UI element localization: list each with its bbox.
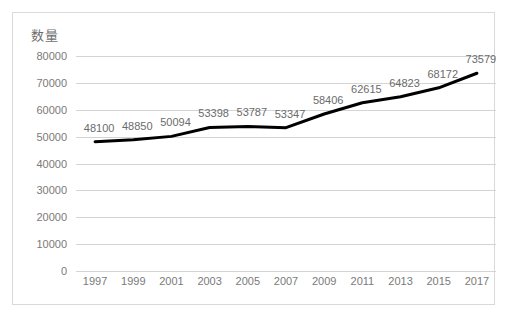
x-tick-label: 2013 xyxy=(388,275,412,287)
y-tick-label: 50000 xyxy=(21,131,67,143)
data-label: 53787 xyxy=(237,106,268,118)
data-label: 68172 xyxy=(427,68,458,80)
data-label: 48850 xyxy=(122,120,153,132)
x-tick-label: 1997 xyxy=(83,275,107,287)
y-tick-label: 60000 xyxy=(21,104,67,116)
x-tick-label: 2001 xyxy=(159,275,183,287)
data-label: 64823 xyxy=(389,77,420,89)
y-tick-label: 30000 xyxy=(21,184,67,196)
data-label: 50094 xyxy=(160,116,191,128)
data-label: 48100 xyxy=(84,122,115,134)
x-tick-label: 2005 xyxy=(236,275,260,287)
y-tick-label: 10000 xyxy=(21,238,67,250)
x-tick-label: 2015 xyxy=(426,275,450,287)
data-label: 58406 xyxy=(313,94,344,106)
y-tick-label: 0 xyxy=(21,265,67,277)
y-tick-label: 80000 xyxy=(21,50,67,62)
data-label: 53398 xyxy=(198,107,229,119)
x-tick-label: 1999 xyxy=(121,275,145,287)
chart-container: 数量 0100002000030000400005000060000700008… xyxy=(12,12,495,305)
data-point-labels: 4810048850500945339853787533475840662615… xyxy=(76,56,496,271)
data-label: 73579 xyxy=(466,53,497,65)
data-label: 53347 xyxy=(275,108,306,120)
x-tick-label: 2009 xyxy=(312,275,336,287)
x-tick-label: 2017 xyxy=(465,275,489,287)
gridline xyxy=(76,271,496,272)
y-tick-label: 20000 xyxy=(21,211,67,223)
x-tick-label: 2007 xyxy=(274,275,298,287)
y-axis-title: 数量 xyxy=(31,25,59,44)
y-axis-tick-labels: 0100002000030000400005000060000700008000… xyxy=(21,56,67,271)
x-axis-tick-labels: 1997199920012003200520072009201120132015… xyxy=(76,275,496,295)
x-tick-label: 2003 xyxy=(197,275,221,287)
x-tick-label: 2011 xyxy=(351,275,375,287)
y-tick-label: 40000 xyxy=(21,158,67,170)
data-label: 62615 xyxy=(351,83,382,95)
y-tick-label: 70000 xyxy=(21,77,67,89)
